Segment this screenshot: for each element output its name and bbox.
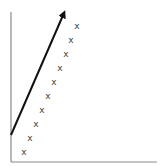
diagram-canvas: xxxxxxxxxx xyxy=(0,0,166,166)
data-point-marker: x xyxy=(39,105,45,115)
scatter-arrow-diagram: xxxxxxxxxx xyxy=(0,0,166,166)
data-point-marker: x xyxy=(21,147,27,157)
direction-arrow xyxy=(11,13,64,135)
data-point-marker: x xyxy=(33,119,39,129)
data-point-marker: x xyxy=(45,91,51,101)
data-point-marker: x xyxy=(74,21,80,31)
data-point-marker: x xyxy=(57,63,63,73)
data-point-marker: x xyxy=(68,35,74,45)
data-point-marker: x xyxy=(63,49,69,59)
data-point-marker: x xyxy=(27,133,33,143)
data-point-marker: x xyxy=(51,77,57,87)
